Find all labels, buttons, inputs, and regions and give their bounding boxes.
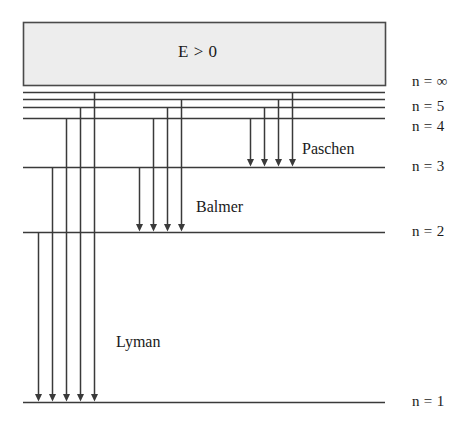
transition-arrowhead-lyman-3-to-1 [49, 394, 56, 402]
transition-arrowhead-lyman-6-to-1 [91, 394, 98, 402]
transition-arrowhead-lyman-2-to-1 [35, 394, 42, 402]
transition-arrowhead-balmer-6-to-2 [178, 224, 185, 232]
series-label-lyman: Lyman [116, 333, 160, 351]
continuum-label: E > 0 [178, 42, 217, 62]
energy-level-lines [23, 93, 385, 403]
level-label-n-4: n = 4 [412, 118, 444, 135]
energy-level-diagram: E > 0n = ∞n = 5n = 4n = 3n = 2n = 1Pasch… [0, 0, 476, 425]
transition-arrowhead-lyman-5-to-1 [77, 394, 84, 402]
transition-arrowhead-paschen-4-to-3 [247, 159, 254, 167]
transition-arrowhead-paschen-5-to-3 [261, 159, 268, 167]
level-label-n-3: n = 3 [412, 158, 444, 175]
transition-arrowhead-lyman-4-to-1 [63, 394, 70, 402]
transition-arrowhead-paschen-6-to-3 [275, 159, 282, 167]
transition-arrowhead-balmer-3-to-2 [136, 224, 143, 232]
level-label-n-5: n = 5 [412, 98, 444, 115]
transition-arrowhead-balmer-4-to-2 [150, 224, 157, 232]
level-label-n-1: n = 1 [412, 393, 444, 410]
level-label-n-infinity: n = ∞ [412, 73, 448, 90]
transition-arrowhead-balmer-5-to-2 [164, 224, 171, 232]
transition-arrows [35, 92, 296, 402]
transition-arrowhead-paschen-7-to-3 [289, 159, 296, 167]
series-label-paschen: Paschen [302, 140, 354, 158]
series-label-balmer: Balmer [196, 198, 243, 216]
level-label-n-2: n = 2 [412, 223, 444, 240]
